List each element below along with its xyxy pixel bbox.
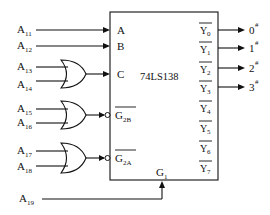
svg-text:A: A: [17, 116, 25, 128]
arrow-icon: [103, 43, 110, 49]
svg-text:12: 12: [25, 46, 33, 54]
svg-text:A: A: [17, 39, 25, 51]
pin-g2a-label: G 2A: [115, 150, 136, 167]
arrow-icon: [103, 27, 110, 33]
svg-text:15: 15: [25, 109, 33, 117]
svg-text:G: G: [156, 166, 164, 178]
svg-text:2: 2: [207, 69, 211, 77]
svg-text:14: 14: [25, 85, 33, 93]
svg-text:G: G: [115, 152, 123, 164]
output-y5: Y 5: [199, 121, 212, 136]
decoder-chip-box: [110, 12, 218, 180]
arrow-icon: [99, 112, 105, 118]
output-y0: Y 0 0 #: [199, 21, 259, 38]
svg-text:3: 3: [207, 88, 211, 96]
svg-text:A: A: [17, 160, 25, 172]
svg-text:A: A: [17, 102, 25, 114]
arrow-icon: [238, 84, 245, 90]
svg-text:A: A: [17, 23, 25, 35]
svg-text:A: A: [17, 144, 25, 156]
pin-g1-label: G 1: [156, 166, 168, 181]
output-y3: Y 3 3 #: [199, 78, 259, 96]
svg-text:6: 6: [207, 148, 211, 156]
svg-text:#: #: [255, 21, 259, 29]
svg-text:5: 5: [207, 128, 211, 136]
or-gate-g2a: A 17 A 18: [17, 143, 110, 175]
decoder-circuit-diagram: 74LS138 A 11 A A 12 B A 13 A 14 C A 15 A…: [0, 0, 270, 215]
pin-b-label: B: [117, 40, 124, 52]
svg-text:16: 16: [25, 123, 33, 131]
pin-a-label: A: [117, 24, 125, 36]
input-a19: A 19: [19, 181, 165, 207]
pin-c-label: C: [117, 68, 124, 80]
svg-text:A: A: [17, 78, 25, 90]
output-y2: Y 2 2 #: [199, 59, 259, 77]
svg-text:0: 0: [207, 30, 211, 38]
output-y4: Y 4: [199, 101, 212, 116]
svg-text:#: #: [255, 39, 259, 47]
chip-label: 74LS138: [140, 71, 179, 82]
input-a11: A 11: [17, 23, 110, 38]
svg-text:G: G: [115, 109, 123, 121]
svg-text:18: 18: [25, 167, 33, 175]
svg-text:13: 13: [25, 67, 33, 75]
input-a12: A 12: [17, 39, 110, 54]
svg-text:2B: 2B: [123, 116, 132, 124]
svg-text:A: A: [17, 60, 25, 72]
arrow-icon: [238, 65, 245, 71]
svg-text:#: #: [255, 59, 259, 67]
arrow-icon: [159, 181, 165, 188]
svg-text:4: 4: [207, 108, 211, 116]
svg-text:1: 1: [249, 42, 255, 54]
inversion-bubble-icon: [105, 156, 110, 161]
or-gate-c: A 13 A 14: [17, 60, 110, 93]
svg-text:19: 19: [27, 199, 35, 207]
output-y7: Y 7: [199, 161, 212, 176]
svg-text:11: 11: [25, 30, 32, 38]
arrow-icon: [238, 45, 245, 51]
svg-text:1: 1: [207, 49, 211, 57]
arrow-icon: [238, 27, 245, 33]
svg-text:1: 1: [164, 173, 168, 181]
svg-text:2: 2: [249, 62, 255, 74]
svg-text:2A: 2A: [123, 159, 132, 167]
svg-text:17: 17: [25, 151, 33, 159]
arrow-icon: [103, 71, 110, 77]
inversion-bubble-icon: [105, 113, 110, 118]
arrow-icon: [99, 155, 105, 161]
pin-g2b-label: G 2B: [115, 107, 136, 124]
output-y1: Y 1 1 #: [199, 39, 259, 57]
output-y6: Y 6: [199, 141, 212, 156]
svg-text:7: 7: [207, 168, 211, 176]
svg-text:A: A: [19, 192, 27, 204]
svg-text:#: #: [255, 78, 259, 86]
or-gate-g2b: A 15 A 16: [17, 101, 110, 131]
